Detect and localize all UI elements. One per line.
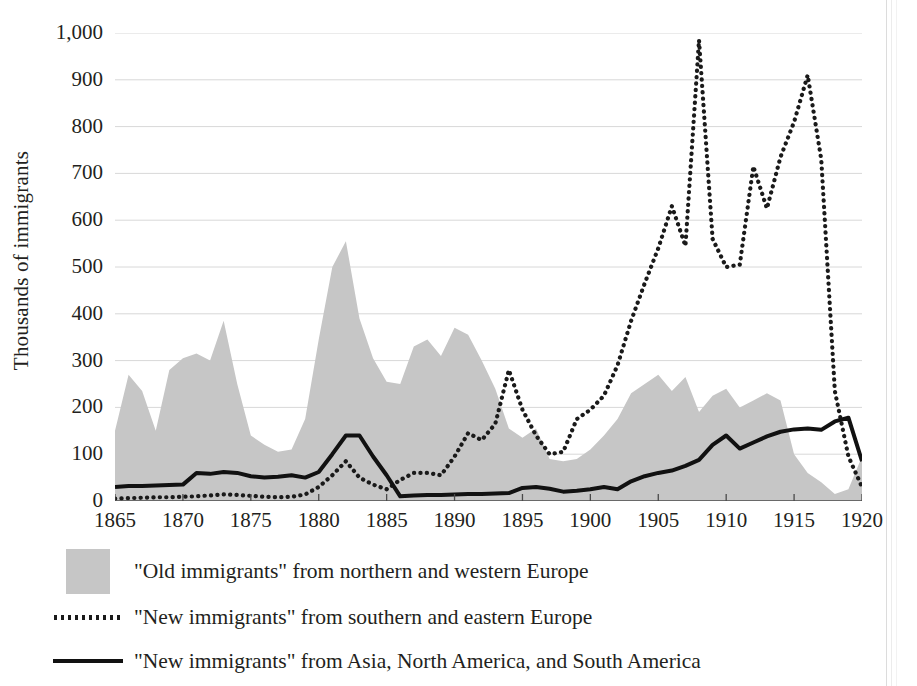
legend-label-new-immigrants-europe: "New immigrants" from southern and easte… <box>134 605 592 629</box>
dotted-line-icon <box>54 615 122 620</box>
legend-key-dotted <box>42 615 134 620</box>
x-axis-tick-label: 1920 <box>817 510 907 531</box>
legend-item-old-immigrants: "Old immigrants" from northern and weste… <box>0 550 589 592</box>
chart-svg <box>115 33 862 501</box>
area-swatch-icon <box>66 549 110 594</box>
y-axis-tick-label: 200 <box>3 396 103 417</box>
y-axis-tick-label: 1,000 <box>3 22 103 43</box>
series-area-old-immigrants <box>115 241 862 501</box>
chart-page: Thousands of immigrants 0100200300400500… <box>0 0 917 686</box>
solid-line-icon <box>53 659 123 663</box>
page-edge-line <box>891 0 892 686</box>
legend-item-new-immigrants-europe: "New immigrants" from southern and easte… <box>0 596 592 638</box>
chart-legend: "Old immigrants" from northern and weste… <box>0 548 880 683</box>
y-axis-tick-label: 0 <box>3 490 103 511</box>
legend-key-solid <box>42 659 134 663</box>
y-axis-tick-label: 900 <box>3 69 103 90</box>
y-axis-tick-label: 300 <box>3 350 103 371</box>
y-axis-tick-label: 500 <box>3 256 103 277</box>
chart-area: 01002003004005006007008009001,0001865187… <box>0 0 880 540</box>
plot-canvas <box>115 33 862 501</box>
page-edge-line <box>896 0 897 686</box>
legend-label-old-immigrants: "Old immigrants" from northern and weste… <box>134 559 589 583</box>
y-axis-tick-label: 100 <box>3 443 103 464</box>
y-axis-tick-label: 800 <box>3 116 103 137</box>
y-axis-tick-label: 600 <box>3 209 103 230</box>
page-edge-line <box>886 0 887 686</box>
y-axis-tick-label: 700 <box>3 162 103 183</box>
legend-label-new-immigrants-americas-asia: "New immigrants" from Asia, North Americ… <box>134 649 701 673</box>
legend-item-new-immigrants-americas-asia: "New immigrants" from Asia, North Americ… <box>0 640 701 682</box>
legend-key-area <box>42 549 134 594</box>
y-axis-tick-label: 400 <box>3 303 103 324</box>
